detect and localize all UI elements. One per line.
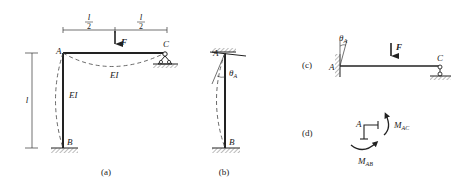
node-label-A: A — [355, 119, 362, 129]
caption-a: (a) — [101, 167, 111, 177]
dim-right-denominator: 2 — [139, 22, 143, 31]
moment-label-AC: MAC — [393, 120, 410, 131]
column-deflected-shape — [56, 53, 64, 148]
dim-right-numerator: l — [140, 12, 143, 22]
column-deflected-shape — [217, 53, 226, 148]
dim-left-denominator: 2 — [87, 22, 91, 31]
height-label: l — [26, 95, 29, 105]
panel-b: A θA B (b) — [210, 48, 246, 177]
theta-arc — [217, 76, 225, 77]
fixed-support-B — [212, 148, 240, 153]
node-label-C: C — [437, 53, 444, 63]
node-label-A: A — [328, 62, 335, 72]
load-label-F: F — [120, 37, 127, 47]
fixed-wall-A — [335, 54, 340, 77]
node-label-C: C — [163, 39, 170, 49]
node-label-B: B — [67, 137, 73, 147]
node-label-A: A — [212, 48, 219, 58]
caption-b: (b) — [219, 167, 230, 177]
load-label-F: F — [395, 42, 402, 52]
caption-c: (c) — [302, 60, 312, 70]
panel-d: (d) A MAC MAB — [302, 115, 410, 167]
theta-label: θA — [229, 68, 237, 79]
panel-a: l 2 l 2 l F C A — [25, 12, 178, 177]
caption-d: (d) — [302, 128, 313, 138]
node-label-B: B — [229, 137, 235, 147]
beam-deflected-shape — [63, 53, 165, 67]
column-EI-label: EI — [68, 90, 78, 100]
panel-c: (c) θA A F C — [302, 33, 451, 80]
moment-label-AB: MAB — [357, 156, 373, 167]
fixed-support-B — [51, 148, 78, 153]
pin-support-C — [153, 52, 178, 68]
roller-support-C — [430, 65, 451, 80]
node-label-A: A — [55, 46, 62, 56]
structural-frame-diagram: l 2 l 2 l F C A — [0, 0, 469, 189]
moment-arrow-AB — [351, 143, 376, 150]
moment-arrow-AC — [384, 115, 389, 135]
beam-EI-label: EI — [109, 70, 119, 80]
theta-label: θA — [339, 33, 347, 44]
dim-left-numerator: l — [88, 12, 91, 22]
joint-A-free-body — [360, 121, 378, 139]
